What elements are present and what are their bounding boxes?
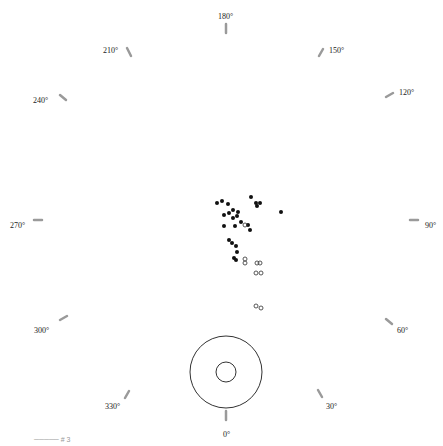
angle-label: 150°	[329, 46, 344, 55]
angle-label: 330°	[105, 402, 120, 411]
target-ring	[216, 362, 236, 382]
angle-label: 240°	[33, 96, 48, 105]
angle-tick-icon	[318, 390, 322, 397]
data-point-filled	[222, 213, 226, 217]
data-point-hollow	[243, 257, 247, 261]
data-point-filled	[231, 216, 235, 220]
data-point-filled	[239, 220, 243, 224]
angle-tick-icon	[127, 48, 131, 56]
data-point-hollow	[259, 271, 263, 275]
data-point-hollow	[259, 306, 263, 310]
angle-tick-icon	[60, 95, 66, 100]
angle-label: 270°	[10, 221, 25, 230]
data-point-filled	[235, 214, 239, 218]
data-point-filled	[233, 224, 237, 228]
angle-tick-icon	[319, 49, 323, 56]
angle-label: 180°	[218, 12, 233, 21]
data-point-filled	[249, 195, 253, 199]
target-ring	[190, 336, 262, 408]
angle-tick-icon	[386, 93, 393, 97]
angle-tick-icon	[125, 391, 129, 398]
data-point-filled	[226, 202, 230, 206]
data-point-filled	[222, 224, 226, 228]
angle-label: 0°	[223, 430, 230, 439]
data-point-filled	[255, 204, 259, 208]
angle-label: 60°	[397, 326, 408, 335]
angle-label: 120°	[399, 88, 414, 97]
data-point-filled	[231, 208, 235, 212]
angle-tick-icon	[386, 319, 392, 324]
angle-tick-icon	[60, 316, 67, 320]
data-point-filled	[236, 210, 240, 214]
data-point-filled	[234, 244, 238, 248]
data-point-filled	[235, 250, 239, 254]
polar-plot: 180°150°120°90°60°30°0°330°300°270°240°2…	[0, 0, 443, 446]
data-point-hollow	[254, 271, 258, 275]
data-point-filled	[230, 241, 234, 245]
data-point-filled	[279, 210, 283, 214]
data-point-filled	[220, 199, 224, 203]
data-point-filled	[227, 211, 231, 215]
data-point-filled	[227, 238, 231, 242]
data-point-filled	[258, 201, 262, 205]
angle-label: 90°	[425, 221, 436, 230]
plot-canvas: 180°150°120°90°60°30°0°330°300°270°240°2…	[0, 0, 443, 446]
footer-caption: ───── # 3	[34, 436, 70, 443]
data-point-filled	[234, 258, 238, 262]
angle-label: 210°	[103, 46, 118, 55]
angle-label: 300°	[34, 326, 49, 335]
data-point-filled	[248, 228, 252, 232]
angle-label: 30°	[326, 402, 337, 411]
data-point-hollow	[254, 304, 258, 308]
data-point-filled	[215, 201, 219, 205]
data-point-hollow	[243, 261, 247, 265]
